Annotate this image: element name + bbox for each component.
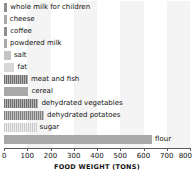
x-tick [144,148,145,151]
bar-row: dehydrated vegetables [4,97,190,109]
bar-row: dehydrated potatoes [4,109,190,121]
bar-row: sugar [4,121,190,133]
bar [4,63,14,72]
bar [4,51,11,60]
plot-area: whole milk for childrencheesecoffeepowde… [4,1,190,148]
x-tick-label: 400 [90,152,103,160]
x-tick-label: 700 [160,152,173,160]
x-tick [97,148,98,151]
bar-rows: whole milk for childrencheesecoffeepowde… [4,1,190,148]
bar-label: dehydrated potatoes [44,111,120,119]
bar-row: meat and fish [4,73,190,85]
x-axis-title: FOOD WEIGHT (TONS) [4,163,190,171]
bar-label: cereal [28,87,52,95]
bar-row: cereal [4,85,190,97]
x-tick-label: 500 [114,152,127,160]
x-tick-label: 300 [67,152,80,160]
bar-row: salt [4,49,190,61]
x-tick-label: 600 [137,152,150,160]
bar-label: powdered milk [7,39,62,47]
bar-label: flour [152,135,171,143]
bar [4,99,38,108]
x-tick-label: 0 [2,152,6,160]
bar-row: fat [4,61,190,73]
x-tick [167,148,168,151]
x-tick [74,148,75,151]
bar-label: fat [14,63,27,71]
bar [4,87,28,96]
x-tick [51,148,52,151]
x-tick-label: 100 [21,152,34,160]
bar-label: cheese [7,15,35,23]
x-tick [190,148,191,151]
bar-label: salt [11,51,27,59]
x-tick [27,148,28,151]
bar [4,123,37,132]
x-tick [120,148,121,151]
bar [4,135,152,144]
bar-row: powdered milk [4,37,190,49]
bar-label: whole milk for children [7,3,90,11]
x-tick-label: 200 [44,152,57,160]
bar-row: cheese [4,13,190,25]
x-tick [4,148,5,151]
x-axis: 0100200300400500600700800 FOOD WEIGHT (T… [4,148,190,173]
bar-chart: whole milk for childrencheesecoffeepowde… [0,0,193,173]
bar-label: meat and fish [28,75,79,83]
bar [4,75,28,84]
bar [4,111,44,120]
x-tick-label: 800 [179,152,192,160]
bar-label: coffee [7,27,32,35]
bar-label: dehydrated vegetables [38,99,122,107]
bar-row: coffee [4,25,190,37]
bar-label: sugar [37,123,60,131]
bar-row: flour [4,133,190,145]
bar-row: whole milk for children [4,1,190,13]
